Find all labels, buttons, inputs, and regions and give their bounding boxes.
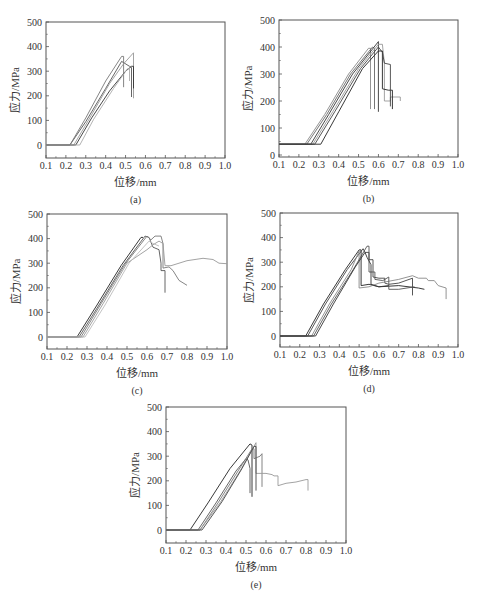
y-axis-title: 应力/MPa: [242, 257, 255, 303]
y-tick-label: 300: [260, 69, 275, 80]
y-tick-label: 200: [260, 96, 275, 107]
x-tick-label: 0.4: [220, 545, 233, 556]
plot-frame: [47, 214, 227, 349]
x-tick-label: 0.1: [41, 351, 54, 362]
y-tick-label: 100: [28, 307, 43, 318]
stress-curve-specimen-2: [47, 236, 165, 337]
chart-panel-d: 0.10.20.30.40.50.60.70.80.91.00100200300…: [242, 208, 464, 396]
y-tick-label: 0: [37, 140, 42, 151]
stress-curve-specimen-2: [279, 47, 375, 144]
panel-label: (c): [131, 385, 142, 397]
x-tick-label: 0.6: [139, 160, 152, 171]
y-tick-label: 400: [27, 41, 42, 52]
y-tick-label: 300: [261, 257, 276, 268]
stress-curve-specimen-4: [47, 241, 227, 337]
x-tick-label: 0.2: [60, 160, 73, 171]
x-tick-label: 0.1: [273, 159, 286, 170]
x-tick-label: 0.3: [81, 351, 94, 362]
y-tick-label: 100: [261, 306, 276, 317]
panel-label: (e): [250, 579, 261, 591]
y-tick-label: 500: [28, 209, 43, 220]
x-tick-label: 0.2: [294, 349, 307, 360]
x-tick-label: 0.1: [40, 160, 53, 171]
y-axis-title: 应力/MPa: [241, 65, 254, 111]
x-tick-label: 0.4: [101, 351, 114, 362]
y-tick-label: 0: [271, 331, 276, 342]
stress-curve-specimen-1: [46, 61, 132, 145]
x-tick-label: 0.4: [99, 160, 112, 171]
x-tick-label: 1.0: [452, 159, 465, 170]
x-tick-label: 1.0: [340, 545, 353, 556]
x-tick-label: 0.6: [260, 545, 273, 556]
y-tick-label: 400: [28, 233, 43, 244]
stress-curve-specimen-5: [279, 51, 392, 144]
stress-curve-specimen-6: [279, 47, 390, 144]
x-tick-label: 0.2: [61, 351, 74, 362]
x-axis-title: 位移/mm: [116, 366, 159, 379]
y-tick-label: 300: [28, 258, 43, 269]
y-tick-label: 0: [270, 150, 275, 161]
chart-panel-c: 0.10.20.30.40.50.60.70.80.91.00100200300…: [9, 209, 233, 398]
x-tick-label: 0.3: [313, 349, 326, 360]
x-tick-label: 0.9: [199, 160, 212, 171]
x-axis-title: 位移/mm: [347, 174, 390, 187]
x-tick-label: 0.2: [180, 545, 193, 556]
chart-panel-e: 0.10.20.30.40.50.60.70.80.91.00100200300…: [128, 402, 352, 592]
x-tick-label: 0.7: [392, 159, 405, 170]
y-tick-label: 300: [147, 451, 162, 462]
plot-frame: [46, 22, 225, 158]
x-tick-label: 1.0: [219, 160, 232, 171]
stress-curve-specimen-5: [280, 252, 389, 336]
x-tick-label: 0.6: [373, 349, 386, 360]
y-tick-label: 200: [147, 475, 162, 486]
stress-curve-specimen-4: [280, 246, 415, 336]
panel-label: (b): [363, 193, 375, 205]
x-tick-label: 0.8: [181, 351, 194, 362]
x-tick-label: 0.3: [313, 159, 326, 170]
stress-curve-specimen-2: [280, 249, 413, 336]
x-tick-label: 0.3: [200, 545, 213, 556]
panel-label: (d): [363, 383, 375, 395]
stress-curve-specimen-5: [47, 241, 159, 337]
y-tick-label: 400: [261, 232, 276, 243]
x-axis-title: 位移/mm: [348, 364, 391, 377]
x-tick-label: 0.9: [432, 349, 445, 360]
y-tick-label: 500: [261, 208, 276, 219]
x-tick-label: 0.7: [161, 351, 174, 362]
stress-curve-specimen-1: [279, 48, 371, 144]
y-tick-label: 200: [27, 90, 42, 101]
x-tick-label: 0.7: [280, 545, 293, 556]
x-tick-label: 0.8: [179, 160, 192, 171]
x-axis-title: 位移/mm: [235, 560, 278, 573]
y-tick-label: 100: [27, 115, 42, 126]
plot-frame: [280, 213, 458, 347]
x-tick-label: 0.8: [412, 159, 425, 170]
stress-curve-specimen-3: [280, 251, 446, 336]
y-tick-label: 0: [157, 525, 162, 536]
x-tick-label: 0.5: [352, 159, 365, 170]
x-axis-title: 位移/mm: [114, 175, 157, 188]
chart-panel-b: 0.10.20.30.40.50.60.70.80.91.00100200300…: [241, 15, 464, 206]
y-axis-title: 应力/MPa: [128, 452, 141, 498]
x-tick-label: 0.5: [240, 545, 253, 556]
stress-curve-specimen-2: [46, 56, 124, 145]
x-tick-label: 0.3: [80, 160, 93, 171]
x-tick-label: 0.6: [141, 351, 154, 362]
y-tick-label: 200: [261, 281, 276, 292]
stress-curve-specimen-3: [47, 236, 187, 337]
x-tick-label: 0.5: [121, 351, 134, 362]
x-tick-label: 1.0: [452, 349, 465, 360]
stress-curve-specimen-5: [46, 69, 130, 145]
stress-curve-specimen-5: [166, 446, 256, 530]
x-tick-label: 0.2: [293, 159, 306, 170]
figure-canvas: 0.10.20.30.40.50.60.70.80.91.00100200300…: [0, 0, 478, 603]
plot-frame: [279, 20, 458, 157]
y-tick-label: 400: [147, 426, 162, 437]
x-tick-label: 0.4: [332, 159, 345, 170]
stress-curve-specimen-3: [279, 42, 378, 145]
panel-label: (a): [130, 194, 141, 206]
y-tick-label: 300: [27, 66, 42, 77]
x-tick-label: 0.9: [320, 545, 333, 556]
x-tick-label: 0.9: [201, 351, 214, 362]
x-tick-label: 0.7: [159, 160, 172, 171]
